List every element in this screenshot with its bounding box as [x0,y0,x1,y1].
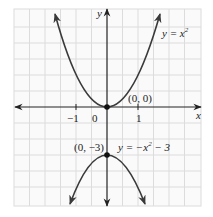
chart-svg: x y −1 0 1 (0, 0) (0, −3) y = x2 y = −x2… [0,0,213,217]
parabola-chart: x y −1 0 1 (0, 0) (0, −3) y = x2 y = −x2… [0,0,213,217]
curve-label-upper: y = x2 [161,26,189,39]
curve-label-lower-main: y = −x [117,141,148,153]
point-origin [104,104,110,110]
x-tick-label-0: 0 [92,112,98,124]
x-tick-label-1: 1 [136,112,142,124]
x-axis-label: x [195,109,201,121]
curve-label-upper-main: y = x [161,27,185,39]
curve-label-lower: y = −x2 − 3 [117,140,171,153]
annotation-vertex-lower: (0, −3) [74,141,104,154]
y-axis-label: y [96,7,102,19]
curve-label-upper-exp: 2 [185,26,189,34]
curve-label-lower-tail: − 3 [152,141,171,153]
x-tick-label-neg1: −1 [67,112,79,124]
point-vertex-lower [104,152,110,158]
annotation-origin: (0, 0) [128,92,152,105]
